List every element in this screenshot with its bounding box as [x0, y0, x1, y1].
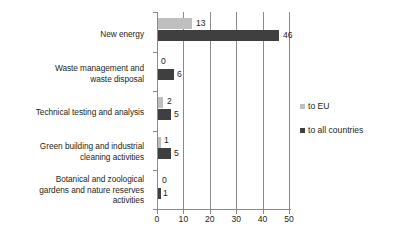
gridline-10 — [183, 12, 184, 210]
bar-value-to-eu: 0 — [161, 56, 166, 67]
bar-to-eu — [158, 97, 163, 108]
bar-value-to-all-countries: 5 — [174, 148, 179, 159]
x-axis-tick-label: 10 — [173, 214, 193, 225]
chart-legend: to EU to all countries — [300, 100, 394, 140]
y-axis-tick — [153, 12, 157, 13]
x-axis-tick-label: 0 — [147, 214, 167, 225]
category-label-line: waste disposal — [0, 74, 144, 85]
y-axis-tick — [153, 91, 157, 92]
bar-value-to-eu: 2 — [167, 96, 172, 107]
x-axis-tick-label: 20 — [200, 214, 220, 225]
category-label-line: activities — [0, 195, 144, 206]
bar-to-all-countries — [158, 69, 174, 80]
legend-item-to-all-countries: to all countries — [300, 124, 394, 140]
category-label-botanical-gardens: Botanical and zoological gardens and nat… — [0, 174, 144, 206]
bar-value-to-eu: 0 — [162, 175, 167, 186]
bar-to-eu — [158, 18, 192, 29]
bar-chart: New energy Waste management and waste di… — [0, 0, 394, 240]
gridline-40 — [263, 12, 264, 210]
category-label-line: New energy — [0, 29, 144, 40]
bar-to-all-countries — [158, 109, 171, 120]
bar-to-all-countries — [158, 148, 171, 159]
legend-label: to all countries — [308, 123, 363, 137]
x-axis-tick-labels: 0 10 20 30 40 50 — [157, 214, 297, 228]
bar-to-all-countries — [158, 188, 161, 199]
bar-to-all-countries — [158, 30, 279, 41]
category-label-line: gardens and nature reserves — [0, 185, 144, 196]
gridline-50 — [289, 12, 290, 210]
bar-value-to-eu: 1 — [164, 135, 169, 146]
bar-value-to-eu: 13 — [196, 18, 206, 29]
category-label-new-energy: New energy — [0, 29, 144, 40]
bar-value-to-all-countries: 6 — [177, 69, 182, 80]
x-axis-tick-label: 30 — [226, 214, 246, 225]
category-label-technical-testing: Technical testing and analysis — [0, 107, 144, 118]
category-label-green-building: Green building and industrial cleaning a… — [0, 141, 144, 162]
category-label-line: Botanical and zoological — [0, 174, 144, 185]
legend-label: to EU — [308, 99, 330, 113]
x-axis-line — [157, 209, 291, 210]
category-label-waste-management: Waste management and waste disposal — [0, 63, 144, 84]
x-axis-tick-label: 40 — [253, 214, 273, 225]
y-axis-tick — [153, 170, 157, 171]
category-label-line: Green building and industrial — [0, 141, 144, 152]
y-axis-tick — [153, 131, 157, 132]
gridline-30 — [236, 12, 237, 210]
legend-item-to-eu: to EU — [300, 100, 394, 116]
legend-swatch-icon — [300, 104, 305, 109]
bar-value-to-all-countries: 1 — [163, 188, 168, 199]
category-label-line: Technical testing and analysis — [0, 107, 144, 118]
category-label-line: Waste management and — [0, 63, 144, 74]
legend-swatch-icon — [300, 128, 305, 133]
bar-value-to-all-countries: 46 — [283, 30, 293, 41]
category-axis-labels: New energy Waste management and waste di… — [0, 12, 150, 210]
x-axis-tick-label: 50 — [279, 214, 299, 225]
y-axis-tick — [153, 52, 157, 53]
plot-area: 13 46 0 6 2 5 1 5 0 1 — [157, 12, 291, 210]
category-label-line: cleaning activities — [0, 152, 144, 163]
bar-value-to-all-countries: 5 — [174, 109, 179, 120]
bar-to-eu — [158, 137, 161, 148]
gridline-20 — [210, 12, 211, 210]
